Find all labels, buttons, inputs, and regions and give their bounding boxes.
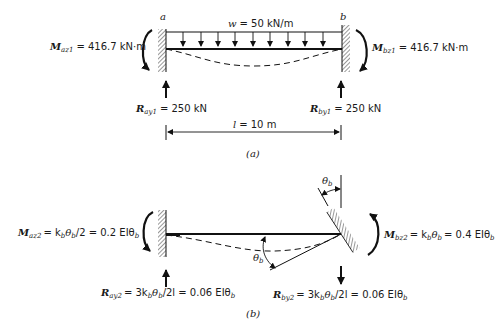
rotated-support-b [327,208,360,253]
fixed-support-a [158,29,166,72]
span-label: l= 10 m [233,119,276,130]
reaction-b-b-label: Rby2= 3kbθb/2l = 0.06 EIθb [272,289,408,302]
caption-b: (b) [246,308,260,319]
moment-arrow-b-b [368,214,378,255]
moment-arrow-a-b [144,212,153,251]
distributed-load-arrows [183,32,323,46]
node-a-label: a [160,11,166,22]
fixed-support-b [342,25,350,72]
figure-b: θb θb Maz2= kbθb/2 = 0.2 EIθb Mbz2= kbθb… [17,175,495,319]
reaction-b-label: Rby1= 250 kN [309,103,381,116]
tangent-line [270,234,341,270]
figure-a: a b w= 50 kN/m Maz1= 416.7 kN·m Mbz1= 41… [49,11,468,159]
beam-diagram: a b w= 50 kN/m Maz1= 416.7 kN·m Mbz1= 41… [0,0,504,336]
theta-top-label: θb [322,175,333,188]
rotated-reference-line [318,188,328,206]
theta-arc-top [322,189,340,195]
theta-left-label: θb [253,252,264,265]
moment-arrow-b [356,30,367,71]
caption-a: (a) [246,148,260,159]
deflected-shape-b [166,234,341,251]
theta-arc-left [263,237,275,268]
load-label: w= 50 kN/m [228,18,293,29]
reaction-a-b-label: Ray2= 3kbθb/2l = 0.06 EIθb [100,287,236,300]
reaction-a-label: Ray1= 250 kN [135,103,207,116]
fixed-support-a-b [158,210,166,257]
moment-b-label: Mbz1= 416.7 kN·m [371,42,468,55]
node-b-label: b [340,11,346,22]
moment-b-b-label: Mbz2= kbθb= 0.4 EIθb [383,229,495,242]
deflected-shape-a [166,49,342,66]
moment-a-b-label: Maz2= kbθb/2 = 0.2 EIθb [17,227,140,240]
moment-a-label: Maz1= 416.7 kN·m [49,41,146,54]
